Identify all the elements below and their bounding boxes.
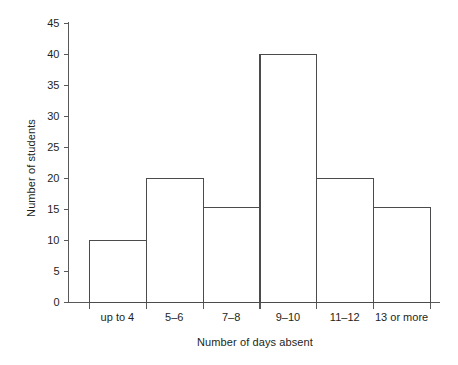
bar bbox=[203, 208, 260, 303]
y-tick-label-group: 051015202530354045 bbox=[47, 17, 59, 308]
y-tick-label: 45 bbox=[47, 17, 59, 29]
x-tick-label-group: up to 45–67–89–1011–1213 or more bbox=[101, 311, 429, 323]
y-tick-label: 5 bbox=[53, 265, 59, 277]
y-tick-label: 25 bbox=[47, 141, 59, 153]
bar bbox=[90, 241, 147, 303]
y-tick-label: 0 bbox=[53, 296, 59, 308]
x-tick-label: 7–8 bbox=[222, 311, 240, 323]
bar bbox=[260, 55, 317, 303]
x-tick-label: 13 or more bbox=[375, 311, 428, 323]
plot-area: 051015202530354045 up to 45–67–89–1011–1… bbox=[0, 0, 458, 365]
x-tick-label: 5–6 bbox=[165, 311, 183, 323]
bar bbox=[146, 179, 203, 303]
bar bbox=[374, 208, 431, 303]
bar bbox=[317, 179, 374, 303]
x-tick-mark-group bbox=[90, 303, 431, 309]
x-tick-label: 11–12 bbox=[330, 311, 360, 323]
y-tick-label: 15 bbox=[47, 203, 59, 215]
y-tick-label: 35 bbox=[47, 79, 59, 91]
x-tick-label: 9–10 bbox=[276, 311, 300, 323]
histogram-chart: Number of students Number of days absent… bbox=[0, 0, 458, 365]
bar-group bbox=[90, 55, 431, 303]
y-tick-label: 40 bbox=[47, 48, 59, 60]
y-tick-label: 10 bbox=[47, 234, 59, 246]
y-tick-mark-group bbox=[64, 24, 69, 303]
y-tick-label: 30 bbox=[47, 110, 59, 122]
y-tick-label: 20 bbox=[47, 172, 59, 184]
x-tick-label: up to 4 bbox=[101, 311, 135, 323]
